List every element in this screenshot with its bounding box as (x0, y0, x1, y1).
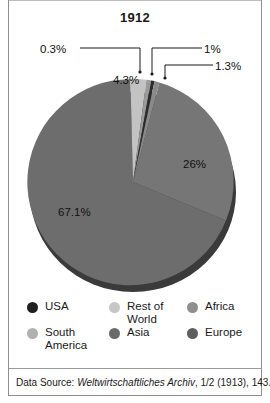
data-source-citation: Data Source: Weltwirtschaftliches Archiv… (16, 377, 270, 388)
legend-item-asia[interactable]: Asia (109, 326, 185, 352)
slice-value-label-usa: 1% (204, 43, 221, 55)
chart-legend: USA Rest of World Africa South America A… (0, 300, 270, 362)
data-source-prefix: Data Source: (16, 377, 77, 388)
legend-row: USA Rest of World Africa (0, 300, 270, 326)
legend-label-rest-of-world: Rest of World (127, 300, 187, 326)
frame-top-border (8, 0, 262, 1)
slice-value-label-asia: 26% (183, 158, 206, 170)
legend-swatch-europe (187, 328, 198, 339)
data-source-suffix: , 1/2 (1913), 143. (195, 377, 270, 388)
slice-value-label-south-america: 1.3% (215, 60, 241, 72)
legend-item-europe[interactable]: Europe (187, 326, 263, 352)
legend-item-usa[interactable]: USA (27, 300, 107, 326)
slice-value-label-europe: 67.1% (58, 206, 91, 218)
legend-item-rest-of-world[interactable]: Rest of World (109, 300, 185, 326)
legend-swatch-africa (187, 302, 198, 313)
slice-value-label-rest-of-world: 4.3% (113, 74, 139, 86)
legend-label-asia: Asia (127, 326, 187, 339)
legend-swatch-usa (27, 302, 38, 313)
slice-value-label-africa: 0.3% (40, 43, 66, 55)
pie-callout-leader-lines (80, 48, 213, 78)
chart-title: 1912 (0, 10, 270, 25)
legend-swatch-asia (109, 328, 120, 339)
legend-item-africa[interactable]: Africa (187, 300, 263, 326)
legend-label-europe: Europe (205, 326, 265, 339)
legend-row: South America Asia Europe (0, 326, 270, 352)
legend-swatch-south-america (27, 328, 38, 339)
legend-separator-rule (9, 368, 262, 369)
pie-slices (27, 79, 233, 285)
legend-label-usa: USA (45, 300, 105, 313)
pie-chart-plot: 67.1% 26% 4.3% (0, 34, 270, 296)
legend-label-south-america: South America (45, 326, 105, 352)
legend-item-south-america[interactable]: South America (27, 326, 107, 352)
pie-chart-figure: 1912 (0, 0, 270, 403)
frame-bottom-border (8, 395, 262, 396)
legend-label-africa: Africa (205, 300, 265, 313)
legend-swatch-rest-of-world (109, 302, 120, 313)
data-source-title: Weltwirtschaftliches Archiv (77, 377, 195, 388)
